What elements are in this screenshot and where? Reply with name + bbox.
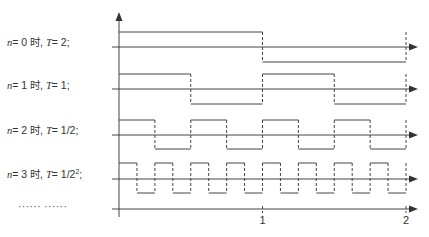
baseline-arrow-icon [409,132,418,139]
x-axis-arrow-icon [409,206,418,213]
y-axis-arrow-icon [116,12,123,21]
tick-label-2: 2 [403,214,409,226]
baseline-arrow-icon [409,86,418,93]
baseline-arrow-icon [409,176,418,183]
baseline-arrow-icon [409,44,418,51]
tick-label-1: 1 [260,214,266,226]
waveform-plot [0,0,429,237]
